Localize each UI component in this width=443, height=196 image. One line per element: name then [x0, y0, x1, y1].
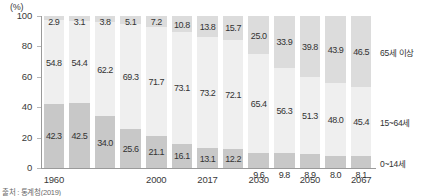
bar-label-0-to-14: 21.1: [146, 147, 166, 157]
x-axis-line: [41, 168, 376, 169]
y-axis-tick-100: 100: [6, 10, 32, 21]
bar-label-15-to-64: 69.3: [120, 72, 140, 82]
bar-label-15-to-64: 45.4: [351, 117, 371, 127]
x-axis-tick-1960: 1960: [34, 174, 74, 185]
bar-label-15-to-64: 48.0: [325, 115, 345, 125]
bar-label-0-to-14: 9.6: [248, 170, 268, 180]
bar-label-15-to-64: 51.3: [300, 111, 320, 121]
bar-label-65-and-over: 5.1: [120, 17, 140, 27]
x-axis-tick-2017: 2017: [188, 174, 228, 185]
bar-label-0-to-14: 25.6: [120, 144, 140, 154]
bar-label-65-and-over: 2.9: [44, 17, 64, 27]
bar-label-0-to-14: 12.2: [223, 154, 243, 164]
bar-segment-0-to-14[interactable]: [325, 156, 345, 168]
bar-column[interactable]: 34.062.23.8: [95, 16, 115, 168]
bar-label-0-to-14: 8.1: [351, 170, 371, 180]
y-axis-tick-40: 40: [6, 101, 32, 112]
bar-label-65-and-over: 39.8: [300, 42, 320, 52]
bar-column[interactable]: 8.951.339.8: [300, 16, 320, 168]
bar-label-0-to-14: 8.0: [325, 170, 345, 180]
bar-label-0-to-14: 8.9: [300, 170, 320, 180]
bar-label-65-and-over: 43.9: [325, 45, 345, 55]
bar-column[interactable]: 8.048.043.9: [325, 16, 345, 168]
bar-label-15-to-64: 72.1: [223, 90, 243, 100]
bar-segment-0-to-14[interactable]: [274, 153, 294, 168]
bar-label-65-and-over: 7.2: [146, 17, 166, 27]
bar-label-65-and-over: 3.8: [95, 17, 115, 27]
y-axis-tick-80: 80: [6, 40, 32, 51]
chart-figure: (%) 020406080100 19602000201720302050206…: [0, 0, 443, 196]
bar-label-15-to-64: 56.3: [274, 106, 294, 116]
bar-segment-0-to-14[interactable]: [300, 154, 320, 168]
bar-label-15-to-64: 62.2: [95, 65, 115, 75]
bar-label-65-and-over: 46.5: [351, 47, 371, 57]
y-axis-line: [41, 16, 42, 168]
legend-item-65-and-over: 65세 이상: [380, 46, 414, 58]
bar-label-65-and-over: 33.9: [274, 37, 294, 47]
source-note: 출처 : 통계청(2019): [2, 186, 61, 196]
bar-label-15-to-64: 54.4: [69, 58, 89, 68]
y-axis-tick-60: 60: [6, 71, 32, 82]
bar-label-15-to-64: 73.1: [172, 83, 192, 93]
y-axis-tick-0: 0: [6, 162, 32, 173]
bar-label-0-to-14: 9.8: [274, 170, 294, 180]
bar-label-15-to-64: 73.2: [197, 88, 217, 98]
bar-column[interactable]: 13.173.213.8: [197, 16, 217, 168]
bar-column[interactable]: 25.669.35.1: [120, 16, 140, 168]
bar-label-15-to-64: 65.4: [248, 99, 268, 109]
bar-label-15-to-64: 71.7: [146, 77, 166, 87]
bar-label-0-to-14: 13.1: [197, 154, 217, 164]
bar-label-0-to-14: 42.5: [69, 131, 89, 141]
bar-label-0-to-14: 34.0: [95, 138, 115, 148]
bar-column[interactable]: 8.145.446.5: [351, 16, 371, 168]
bar-column[interactable]: 42.554.43.1: [69, 16, 89, 168]
bar-column[interactable]: 42.354.82.9: [44, 16, 64, 168]
plot-area: 42.354.82.942.554.43.134.062.23.825.669.…: [41, 16, 374, 168]
bar-label-65-and-over: 13.8: [197, 22, 217, 32]
bar-column[interactable]: 21.171.77.2: [146, 16, 166, 168]
bar-column[interactable]: 12.272.115.7: [223, 16, 243, 168]
bar-column[interactable]: 9.856.333.9: [274, 16, 294, 168]
bar-label-65-and-over: 3.1: [69, 17, 89, 27]
bar-segment-0-to-14[interactable]: [351, 156, 371, 168]
bar-label-0-to-14: 42.3: [44, 131, 64, 141]
bar-label-65-and-over: 25.0: [248, 31, 268, 41]
bar-label-65-and-over: 10.8: [172, 20, 192, 30]
bar-label-15-to-64: 54.8: [44, 58, 64, 68]
bar-segment-0-to-14[interactable]: [248, 153, 268, 168]
x-axis-tick-2000: 2000: [136, 174, 176, 185]
bar-column[interactable]: 16.173.110.8: [172, 16, 192, 168]
legend-item-0-to-14: 0~14세: [380, 157, 406, 169]
y-axis-tick-20: 20: [6, 132, 32, 143]
bar-column[interactable]: 9.665.425.0: [248, 16, 268, 168]
legend-item-15-to-64: 15~64세: [380, 116, 410, 128]
bar-label-65-and-over: 15.7: [223, 23, 243, 33]
bar-label-0-to-14: 16.1: [172, 151, 192, 161]
